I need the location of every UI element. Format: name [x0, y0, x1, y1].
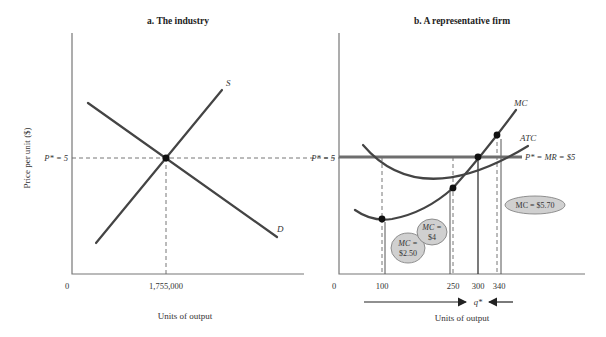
tick-250: 250 — [447, 281, 460, 291]
demand-label: D — [276, 224, 284, 234]
mc-label: MC — [513, 98, 528, 108]
bubble-mc-570: MC = $5.70 — [505, 196, 565, 214]
mr-label: P* = MR = $5 — [524, 152, 575, 162]
svg-text:MC = $5.70: MC = $5.70 — [516, 201, 555, 210]
svg-text:MC =: MC = — [421, 223, 441, 232]
atc-label: ATC — [519, 133, 537, 143]
supply-label: S — [226, 78, 231, 88]
panel-industry: a. The industry Price per unit ($) S D P… — [22, 16, 339, 321]
svg-text:$2.50: $2.50 — [399, 249, 417, 258]
y-axis-label: Price per unit ($) — [22, 127, 32, 188]
tick-340: 340 — [493, 281, 506, 291]
svg-text:MC =: MC = — [397, 239, 417, 248]
panel-a-price-label: P* = 5 — [43, 153, 68, 163]
point-q340 — [494, 132, 501, 139]
panel-a-title: a. The industry — [147, 16, 209, 26]
panel-a-x-label: Units of output — [158, 311, 213, 321]
panel-firm: b. A representative firm P* = 5 MC ATC P… — [310, 16, 585, 323]
panel-b-price-label: P* = 5 — [310, 153, 335, 163]
point-q250 — [450, 185, 457, 192]
panel-a-axes — [72, 33, 304, 274]
panel-b-x-label: Units of output — [435, 313, 490, 323]
panel-a-origin: 0 — [65, 281, 69, 291]
point-q100 — [379, 216, 386, 223]
chart-canvas: a. The industry Price per unit ($) S D P… — [0, 0, 606, 337]
tick-100: 100 — [376, 281, 389, 291]
panel-b-origin: 0 — [332, 281, 336, 291]
bubble-mc-4: MC = $4 — [417, 219, 447, 245]
q-star-label: q* — [474, 297, 483, 307]
point-q300 — [475, 154, 482, 161]
panel-b-title: b. A representative firm — [414, 16, 510, 26]
tick-300: 300 — [472, 281, 485, 291]
panel-a-q-tick: 1,755,000 — [149, 281, 183, 291]
supply-curve — [96, 90, 222, 243]
svg-text:$4: $4 — [428, 233, 436, 242]
atc-curve — [363, 145, 528, 179]
equilibrium-point — [162, 154, 169, 161]
